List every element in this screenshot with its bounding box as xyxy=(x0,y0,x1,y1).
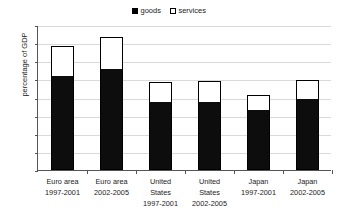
bar-segment-goods xyxy=(198,102,221,171)
x-axis-label-line: 2002-2005 xyxy=(185,198,234,209)
legend-label-goods: goods xyxy=(141,7,161,15)
x-axis-label: Euro area2002-2005 xyxy=(87,176,136,198)
bar-segment-goods xyxy=(149,102,172,170)
y-tick-mark xyxy=(35,80,38,81)
x-axis-label-line: United xyxy=(185,176,234,187)
bar-segment-services xyxy=(100,37,123,70)
bar-1 xyxy=(51,46,74,170)
bar-segment-services xyxy=(51,46,74,76)
bar-3 xyxy=(149,82,172,170)
y-axis-title: percentage of GDP xyxy=(20,10,29,120)
gridline xyxy=(38,153,331,154)
bar-segment-services xyxy=(198,81,221,101)
x-tick-mark xyxy=(283,170,284,174)
x-axis-label: Japan2002-2005 xyxy=(283,176,332,198)
x-axis-label: Japan1997-2001 xyxy=(234,176,283,198)
chart-legend: goods services xyxy=(0,7,338,15)
x-axis-label-line: States xyxy=(136,187,185,198)
x-axis-label-line: 1997-2001 xyxy=(136,198,185,209)
y-tick-mark xyxy=(35,117,38,118)
bar-segment-goods xyxy=(296,99,319,170)
x-axis-label: UnitedStates2002-2005 xyxy=(185,176,234,209)
bar-segment-goods xyxy=(100,69,123,170)
x-axis-label-line: United xyxy=(136,176,185,187)
x-tick-mark xyxy=(185,170,186,174)
y-tick-mark xyxy=(35,44,38,45)
x-tick-mark xyxy=(136,170,137,174)
x-tick-mark xyxy=(332,170,333,174)
y-tick-mark xyxy=(35,171,38,172)
gridline xyxy=(38,62,331,63)
x-axis-label-line: Japan xyxy=(283,176,332,187)
plot-area: 4035302520151050Euro area1997-2001Euro a… xyxy=(37,26,331,171)
x-axis-label-line: Euro area xyxy=(87,176,136,187)
y-tick-mark xyxy=(35,135,38,136)
gridline xyxy=(38,99,331,100)
legend-entry-services: services xyxy=(170,7,206,15)
x-axis-label: UnitedStates1997-2001 xyxy=(136,176,185,209)
gridline xyxy=(38,80,331,81)
bar-6 xyxy=(296,80,319,170)
x-axis-label-line: 2002-2005 xyxy=(283,187,332,198)
gridline xyxy=(38,26,331,27)
bar-segment-goods xyxy=(51,76,74,170)
x-tick-mark xyxy=(87,170,88,174)
y-tick-mark xyxy=(35,153,38,154)
bar-segment-services xyxy=(247,95,270,111)
x-axis-label-line: Euro area xyxy=(38,176,87,187)
bar-segment-services xyxy=(296,80,319,98)
x-tick-mark xyxy=(234,170,235,174)
x-axis-label-line: Japan xyxy=(234,176,283,187)
legend-entry-goods: goods xyxy=(132,7,161,15)
x-axis-label-line: 2002-2005 xyxy=(87,187,136,198)
bar-chart: goods services percentage of GDP 4035302… xyxy=(0,0,338,219)
gridline xyxy=(38,117,331,118)
gridline xyxy=(38,135,331,136)
x-axis-label: Euro area1997-2001 xyxy=(38,176,87,198)
bar-segment-services xyxy=(149,82,172,102)
y-tick-mark xyxy=(35,26,38,27)
legend-swatch-services-icon xyxy=(170,8,176,14)
bar-2 xyxy=(100,37,123,170)
bar-segment-goods xyxy=(247,110,270,170)
legend-label-services: services xyxy=(178,7,206,15)
bar-4 xyxy=(198,81,221,170)
x-axis-label-line: States xyxy=(185,187,234,198)
y-tick-mark xyxy=(35,62,38,63)
x-axis-label-line: 1997-2001 xyxy=(234,187,283,198)
gridline xyxy=(38,44,331,45)
legend-swatch-goods-icon xyxy=(132,8,138,14)
bar-5 xyxy=(247,95,270,170)
x-axis-label-line: 1997-2001 xyxy=(38,187,87,198)
y-tick-mark xyxy=(35,99,38,100)
